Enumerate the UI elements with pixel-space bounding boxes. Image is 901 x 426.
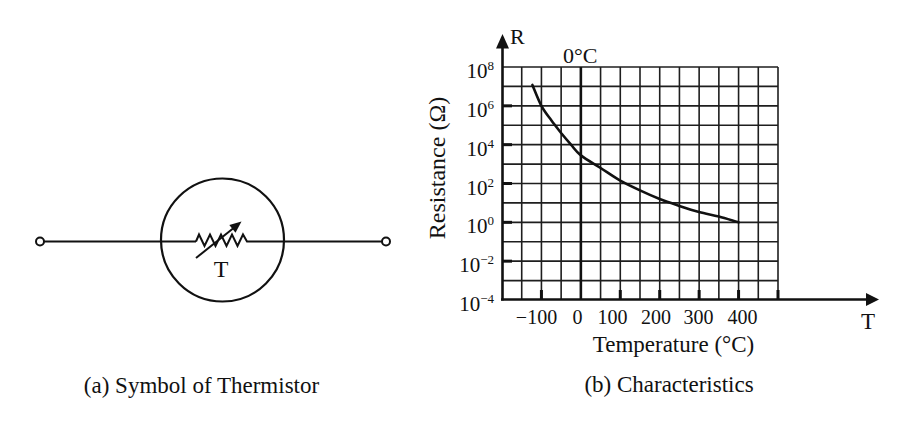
thermistor-figure: T (a) Symbol of Thermistor 1081061041021… — [0, 0, 901, 426]
y-tick-label: 100 — [467, 213, 495, 238]
y-tick-exponent: −4 — [480, 291, 494, 306]
y-tick-exponent: 4 — [488, 136, 495, 151]
y-tick-label: 102 — [467, 175, 495, 200]
x-tick-label: 100 — [598, 306, 628, 328]
x-axis-symbol: T — [861, 309, 875, 334]
panel-a-symbol: T — [36, 179, 390, 302]
terminal-right-icon — [382, 238, 390, 246]
y-tick-exponent: 0 — [488, 213, 495, 228]
x-tick-label: 0 — [573, 306, 583, 328]
thermistor-body-circle — [161, 179, 284, 302]
y-tick-labels: 10810610410210010−210−4 — [459, 58, 494, 316]
caption-panel-a: (a) Symbol of Thermistor — [84, 373, 320, 398]
x-axis-arrow-icon — [866, 293, 879, 306]
y-tick-label: 10−2 — [459, 252, 494, 277]
y-tick-base: 10 — [467, 59, 488, 83]
y-tick-exponent: 2 — [488, 175, 495, 190]
x-axis-title: Temperature (°C) — [593, 332, 754, 357]
y-tick-exponent: 6 — [488, 97, 495, 112]
y-tick-exponent: 8 — [488, 58, 495, 73]
x-tick-labels: −1000100200300400 — [516, 306, 758, 328]
y-axis-symbol: R — [510, 24, 525, 49]
y-axis-arrow-icon — [496, 34, 509, 49]
terminal-left-icon — [36, 238, 44, 246]
panel-b-chart: 10810610410210010−210−4 −100010020030040… — [424, 24, 880, 358]
y-tick-base: 10 — [467, 176, 488, 200]
y-tick-label: 106 — [467, 97, 495, 122]
plot-grid — [502, 67, 778, 300]
y-tick-label: 10−4 — [459, 291, 494, 316]
y-tick-exponent: −2 — [480, 252, 494, 267]
y-axis-title: Resistance (Ω) — [424, 97, 450, 239]
symbol-label: T — [214, 256, 229, 282]
y-tick-base: 10 — [467, 98, 488, 122]
x-tick-label: 400 — [728, 306, 758, 328]
y-tick-base: 10 — [467, 137, 488, 161]
y-tick-base: 10 — [459, 292, 480, 316]
y-tick-base: 10 — [467, 214, 488, 238]
y-tick-base: 10 — [459, 253, 480, 277]
caption-panel-b: (b) Characteristics — [584, 372, 753, 397]
y-tick-label: 108 — [467, 58, 495, 83]
zero-celsius-annotation: 0°C — [563, 43, 597, 68]
y-tick-label: 104 — [467, 136, 495, 161]
x-tick-label: 200 — [641, 306, 671, 328]
x-tick-label: 300 — [684, 306, 714, 328]
x-tick-label: −100 — [516, 306, 557, 328]
